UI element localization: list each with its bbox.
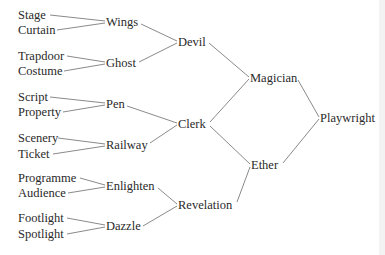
- edge-magician-playwright: [298, 80, 319, 117]
- node-costume: Costume: [18, 64, 62, 78]
- node-enlighten: Enlighten: [106, 179, 155, 193]
- edge-enlighten-revelation: [158, 188, 177, 204]
- node-programme: Programme: [18, 171, 76, 185]
- edge-ether-playwright: [283, 119, 319, 163]
- node-devil: Devil: [178, 35, 206, 49]
- edge-curtain-wings: [57, 23, 105, 30]
- edge-clerk-ether: [210, 126, 250, 164]
- node-dazzle: Dazzle: [106, 219, 141, 233]
- node-ghost: Ghost: [106, 56, 136, 70]
- edge-property-pen: [63, 105, 105, 112]
- edge-devil-magician: [209, 43, 249, 77]
- node-ether: Ether: [251, 158, 278, 172]
- edge-audience-enlighten: [68, 187, 105, 193]
- node-spotlight: Spotlight: [18, 227, 64, 241]
- node-property: Property: [18, 105, 61, 119]
- node-pen: Pen: [106, 97, 125, 111]
- edge-costume-ghost: [64, 64, 105, 71]
- node-clerk: Clerk: [178, 117, 206, 131]
- node-footlight: Footlight: [18, 211, 64, 225]
- edge-trapdoor-ghost: [67, 56, 105, 62]
- node-trapdoor: Trapdoor: [18, 49, 64, 63]
- edge-ticket-railway: [53, 146, 105, 154]
- edge-clerk-magician: [210, 79, 249, 122]
- edge-script-pen: [50, 97, 105, 103]
- edge-dazzle-revelation: [143, 206, 177, 226]
- node-ticket: Ticket: [18, 147, 50, 161]
- edge-footlight-dazzle: [67, 218, 105, 225]
- edge-ghost-devil: [139, 43, 177, 62]
- node-audience: Audience: [18, 186, 66, 200]
- node-railway: Railway: [106, 138, 148, 152]
- node-wings: Wings: [106, 15, 138, 29]
- edge-scenery-railway: [58, 138, 105, 144]
- edge-stage-wings: [50, 15, 105, 21]
- node-magician: Magician: [250, 71, 297, 85]
- edge-spotlight-dazzle: [67, 227, 105, 234]
- edge-railway-clerk: [150, 125, 177, 143]
- edge-revelation-ether: [237, 167, 250, 202]
- node-scenery: Scenery: [18, 131, 58, 145]
- node-curtain: Curtain: [18, 23, 56, 37]
- edge-pen-clerk: [127, 106, 177, 123]
- node-stage: Stage: [18, 8, 46, 22]
- edge-programme-enlighten: [80, 178, 105, 185]
- edge-wings-devil: [141, 24, 177, 41]
- node-script: Script: [18, 90, 48, 104]
- node-playwright: Playwright: [320, 111, 375, 125]
- node-revelation: Revelation: [178, 198, 232, 212]
